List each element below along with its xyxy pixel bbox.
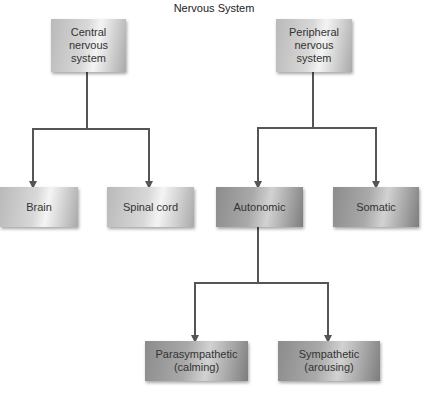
node-autonomic: Autonomic [216, 187, 303, 227]
node-sympathetic: Sympathetic (arousing) [278, 341, 380, 381]
node-somatic: Somatic [333, 187, 419, 227]
node-peripheral-nervous-system: Peripheral nervous system [276, 19, 352, 72]
node-parasympathetic: Parasympathetic (calming) [145, 341, 248, 381]
node-central-nervous-system: Central nervous system [51, 19, 126, 72]
node-spinal-cord: Spinal cord [107, 187, 194, 227]
node-brain: Brain [0, 187, 78, 227]
